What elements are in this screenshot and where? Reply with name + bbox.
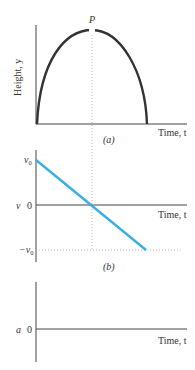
panel-b-tick-zero: 0 xyxy=(27,200,32,211)
panel-a-caption: (a) xyxy=(103,134,115,146)
panel-b-velocity-graph: v0 v 0 −v0 Time, t (b) xyxy=(16,150,187,273)
panel-c-x-axis-label: Time, t xyxy=(158,335,187,346)
panel-b-caption: (b) xyxy=(103,261,115,273)
panel-b-x-axis-label: Time, t xyxy=(158,209,187,220)
panel-b-y-axis-label: v xyxy=(16,200,21,211)
projectile-motion-diagram: P Height, y Time, t (a) v0 v 0 −v0 Time,… xyxy=(0,0,195,370)
tick-neg-v0: −v0 xyxy=(19,244,33,256)
panel-a-height-graph: P Height, y Time, t (a) xyxy=(12,14,187,146)
panel-c-tick-zero: 0 xyxy=(27,324,32,335)
panel-c-acceleration-graph: a 0 Time, t xyxy=(16,282,187,362)
peak-label-p: P xyxy=(88,14,95,25)
tick-v0: v0 xyxy=(24,154,32,166)
peak-gap xyxy=(89,27,95,33)
panel-a-x-axis-label: Time, t xyxy=(158,127,187,138)
panel-c-y-axis-label: a xyxy=(16,324,21,335)
panel-a-y-axis-label: Height, y xyxy=(12,59,23,96)
